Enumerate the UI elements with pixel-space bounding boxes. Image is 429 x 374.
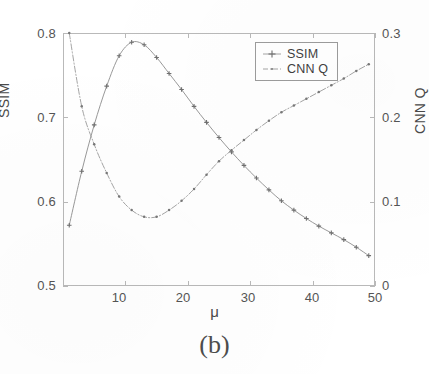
- y-tick-mark-left: [63, 202, 68, 203]
- data-point-marker: [329, 231, 334, 236]
- data-point-marker: [129, 40, 134, 45]
- y-axis-label-right: CNN Q: [412, 87, 428, 134]
- data-point-marker: [342, 237, 347, 242]
- x-tick-mark: [375, 281, 376, 286]
- y-tick-left-1: 0.7: [18, 110, 56, 125]
- data-point-marker: [305, 98, 308, 101]
- legend-label-cnnq: CNN Q: [287, 62, 328, 76]
- data-point-marker: [143, 216, 146, 219]
- legend-label-ssim: SSIM: [287, 47, 318, 61]
- x-tick-mark-top: [250, 33, 251, 38]
- data-point-marker: [168, 209, 171, 212]
- y-tick-right-2: 0.1: [382, 194, 401, 209]
- data-point-marker: [92, 123, 97, 128]
- y-tick-mark-left: [63, 33, 68, 34]
- y-tick-left-2: 0.6: [18, 194, 56, 209]
- x-tick-mark: [313, 281, 314, 286]
- data-point-marker: [354, 245, 359, 250]
- data-point-marker: [368, 63, 371, 65]
- data-point-marker: [355, 70, 358, 73]
- data-point-marker: [79, 169, 84, 174]
- data-point-marker: [68, 32, 71, 35]
- data-point-marker: [268, 119, 271, 122]
- x-tick-mark: [188, 281, 189, 286]
- data-point-marker: [118, 195, 121, 198]
- data-point-marker: [93, 143, 96, 146]
- y-tick-right-3: 0: [382, 278, 389, 293]
- x-tick-mark: [125, 281, 126, 286]
- data-point-marker: [218, 160, 221, 163]
- y-tick-left-3: 0.5: [18, 278, 56, 293]
- data-point-marker: [243, 139, 246, 142]
- data-point-marker: [318, 91, 321, 94]
- legend-item-cnnq: CNN Q: [262, 61, 328, 76]
- data-point-marker: [205, 173, 208, 176]
- data-point-marker: [104, 84, 109, 89]
- figure-caption: (b): [0, 330, 429, 360]
- data-point-marker: [230, 149, 233, 152]
- data-point-marker: [255, 129, 258, 132]
- legend-item-ssim: SSIM: [262, 46, 328, 61]
- y-tick-mark-right: [370, 202, 375, 203]
- plus-marker-icon: [262, 48, 282, 60]
- data-point-marker: [180, 200, 183, 203]
- data-point-marker: [80, 105, 83, 108]
- y-axis-label-left: SSIM: [0, 83, 12, 118]
- x-axis-label: μ: [0, 303, 429, 320]
- x-tick-mark-top: [375, 33, 376, 38]
- data-point-marker: [130, 209, 133, 212]
- data-point-marker: [304, 216, 309, 221]
- y-tick-mark-right: [370, 286, 375, 287]
- data-point-marker: [155, 216, 158, 219]
- legend: SSIM CNN Q: [255, 42, 338, 81]
- dash-dot-line-icon: [262, 63, 282, 75]
- data-point-marker: [343, 77, 346, 80]
- y-tick-right-0: 0.3: [382, 26, 401, 41]
- x-tick-mark-top: [313, 33, 314, 38]
- data-point-marker: [67, 223, 72, 228]
- data-point-marker: [330, 84, 333, 87]
- figure-b: 0.8 0.7 0.6 0.5 0.3 0.2 0.1 0 10 20 30 4…: [0, 0, 429, 374]
- data-point-marker: [193, 188, 196, 191]
- y-tick-mark-right: [370, 117, 375, 118]
- x-tick-mark-top: [125, 33, 126, 38]
- data-point-marker: [117, 53, 122, 58]
- data-point-marker: [280, 111, 283, 114]
- data-point-marker: [105, 172, 108, 175]
- y-tick-mark-left: [63, 286, 68, 287]
- x-tick-mark: [250, 281, 251, 286]
- y-tick-left-0: 0.8: [18, 26, 56, 41]
- y-tick-right-1: 0.2: [382, 110, 401, 125]
- y-tick-mark-left: [63, 117, 68, 118]
- data-point-marker: [317, 224, 322, 229]
- data-point-marker: [293, 104, 296, 107]
- x-tick-mark-top: [188, 33, 189, 38]
